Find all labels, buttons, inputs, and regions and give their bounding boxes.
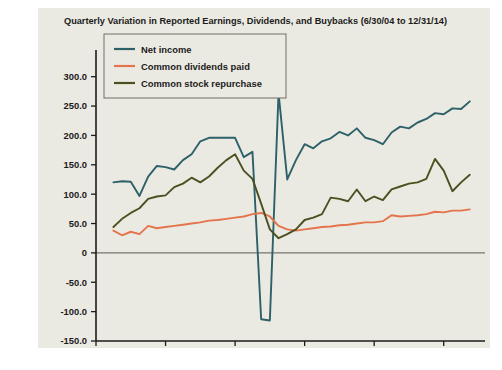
quarterly-variation-line-chart: Quarterly Variation in Reported Earnings… [38,8,490,348]
y-tick-label: -50.0 [66,277,87,288]
legend-label: Common stock repurchase [141,78,262,89]
legend-label: Net income [141,44,192,55]
chart-title: Quarterly Variation in Reported Earnings… [64,16,447,26]
y-tick-label: 300.0 [64,71,87,82]
y-tick-label: 0 [82,247,87,258]
y-tick-label: 50.0 [69,218,87,229]
legend-label: Common dividends paid [141,61,250,72]
chart-figure: Quarterly Variation in Reported Earnings… [38,8,490,348]
y-tick-label: 250.0 [64,100,87,111]
y-tick-label: 150.0 [64,159,87,170]
y-tick-label: 200.0 [64,130,87,141]
y-tick-label: 100.0 [64,189,87,200]
chart-legend: Net incomeCommon dividends paidCommon st… [104,34,286,98]
y-tick-label: -150.0 [60,335,87,346]
y-tick-label: -100.0 [60,306,87,317]
